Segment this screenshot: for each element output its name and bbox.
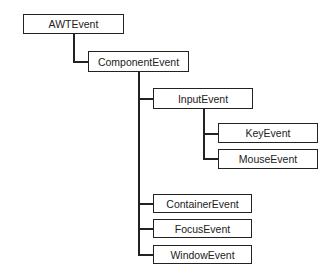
node-label: FocusEvent	[175, 223, 230, 235]
node-label: ComponentEvent	[98, 56, 179, 68]
connector-awtevent-componentevent-horizontal	[73, 61, 89, 63]
connector-inputevent-mouseevent	[203, 158, 219, 160]
node-keyevent: KeyEvent	[218, 123, 318, 143]
connector-componentevent-containerevent	[138, 203, 154, 205]
node-label: InputEvent	[178, 93, 228, 105]
node-label: WindowEvent	[170, 249, 234, 261]
connector-awtevent-componentevent-vertical	[73, 33, 75, 62]
node-componentevent: ComponentEvent	[88, 51, 189, 72]
node-label: KeyEvent	[246, 127, 291, 139]
connector-componentevent-windowevent	[138, 254, 154, 256]
node-containerevent: ContainerEvent	[153, 194, 252, 213]
node-awtevent: AWTEvent	[23, 14, 124, 34]
node-windowevent: WindowEvent	[153, 245, 252, 264]
node-label: MouseEvent	[239, 153, 297, 165]
node-mouseevent: MouseEvent	[218, 149, 318, 169]
node-inputevent: InputEvent	[153, 88, 253, 109]
connector-inputevent-keyevent	[203, 133, 219, 135]
connector-componentevent-inputevent	[138, 98, 154, 100]
node-label: AWTEvent	[49, 18, 99, 30]
node-label: ContainerEvent	[166, 198, 238, 210]
node-focusevent: FocusEvent	[153, 219, 252, 238]
connector-componentevent-focusevent	[138, 228, 154, 230]
class-hierarchy-diagram: AWTEvent ComponentEvent InputEvent KeyEv…	[0, 0, 333, 273]
